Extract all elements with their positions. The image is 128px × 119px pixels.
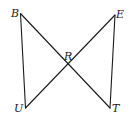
- label-u: U: [14, 102, 24, 115]
- label-r: R: [63, 50, 72, 63]
- label-e: E: [115, 8, 124, 21]
- segment-bu: [21, 14, 26, 109]
- label-b: B: [10, 7, 19, 20]
- geometry-diagram: B E U T R: [0, 0, 128, 119]
- label-t: T: [112, 102, 121, 115]
- segment-et: [110, 15, 115, 108]
